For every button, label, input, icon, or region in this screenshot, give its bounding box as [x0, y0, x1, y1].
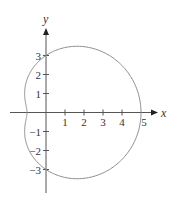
y-axis-label: y: [42, 12, 49, 26]
x-tick-label: 4: [119, 116, 125, 128]
y-axis-arrow-icon: [43, 28, 49, 35]
x-tick-label: 2: [81, 116, 87, 128]
plot-canvas: 12345321−1−2−3 x y: [0, 0, 178, 207]
y-tick-label: −3: [29, 164, 41, 176]
x-axis-label: x: [160, 106, 167, 120]
x-tick-label: 1: [62, 116, 68, 128]
y-tick-label: 2: [36, 69, 42, 81]
y-tick-label: 1: [36, 88, 42, 100]
x-tick-label: 5: [141, 116, 147, 128]
polar-plot: 12345321−1−2−3 x y: [0, 0, 178, 207]
x-tick-label: 3: [100, 116, 106, 128]
x-axis-arrow-icon: [151, 110, 158, 116]
y-tick-label: −1: [29, 126, 41, 138]
